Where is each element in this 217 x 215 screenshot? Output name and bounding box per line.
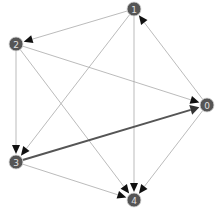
edge-line	[23, 110, 191, 160]
edge-line	[20, 50, 124, 187]
arrowhead-icon	[12, 145, 20, 154]
node-label: 3	[13, 158, 19, 168]
arrowhead-icon	[121, 184, 130, 194]
node-4: 4	[127, 193, 141, 207]
arrowhead-icon	[24, 35, 34, 43]
arrowhead-icon	[139, 15, 148, 25]
edge-3-to-0	[23, 105, 200, 160]
node-label: 4	[131, 196, 137, 206]
arrowhead-icon	[21, 146, 30, 156]
edges-layer	[12, 11, 203, 199]
arrowhead-icon	[189, 105, 199, 115]
edge-line	[23, 164, 118, 195]
arrowhead-icon	[139, 184, 148, 194]
edge-2-to-3	[12, 51, 20, 154]
node-2: 2	[9, 37, 23, 51]
edge-line	[32, 11, 127, 39]
edge-1-to-3	[21, 15, 130, 156]
node-0: 0	[200, 98, 214, 112]
edge-2-to-4	[20, 50, 129, 194]
nodes-layer: 01234	[9, 2, 214, 207]
edge-2-to-0	[23, 46, 200, 104]
edge-0-to-1	[139, 15, 203, 99]
node-label: 2	[13, 40, 19, 50]
node-3: 3	[9, 155, 23, 169]
node-label: 1	[131, 5, 137, 15]
node-1: 1	[127, 2, 141, 16]
edge-line	[26, 15, 129, 149]
arrowhead-icon	[190, 96, 200, 104]
edge-1-to-4	[130, 16, 138, 192]
edge-line	[23, 46, 191, 100]
directed-graph: 01234	[0, 0, 217, 215]
arrowhead-icon	[130, 183, 138, 192]
node-label: 0	[204, 101, 210, 111]
arrowhead-icon	[117, 191, 127, 199]
